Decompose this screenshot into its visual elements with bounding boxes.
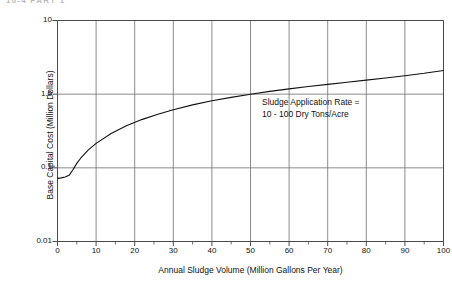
x-axis-tick-label: 100 (429, 246, 452, 255)
annotation-line-2: 10 - 100 Dry Tons/Acre (262, 108, 360, 120)
y-axis-title: Base Capital Cost (Million Dollars) (45, 25, 55, 245)
x-axis-tick-labels: 0102030405060708090100 (0, 0, 452, 283)
x-axis-tick-label: 30 (158, 246, 188, 255)
x-axis-tick-label: 90 (390, 246, 420, 255)
x-axis-tick-label: 70 (313, 246, 343, 255)
figure-chart-base-capital-cost: 10-4 PART 1 0.010.11.010 010203040506070… (0, 0, 452, 283)
x-axis-title: Annual Sludge Volume (Million Gallons Pe… (57, 265, 444, 275)
x-axis-tick-label: 10 (81, 246, 111, 255)
x-axis-tick-label: 60 (274, 246, 304, 255)
x-axis-tick-label: 0 (43, 246, 73, 255)
x-axis-tick-label: 50 (236, 246, 266, 255)
chart-annotation: Sludge Application Rate = 10 - 100 Dry T… (262, 96, 360, 120)
x-axis-tick-label: 40 (197, 246, 227, 255)
x-axis-tick-label: 20 (120, 246, 150, 255)
x-axis-tick-label: 80 (351, 246, 381, 255)
annotation-line-1: Sludge Application Rate = (262, 96, 360, 108)
